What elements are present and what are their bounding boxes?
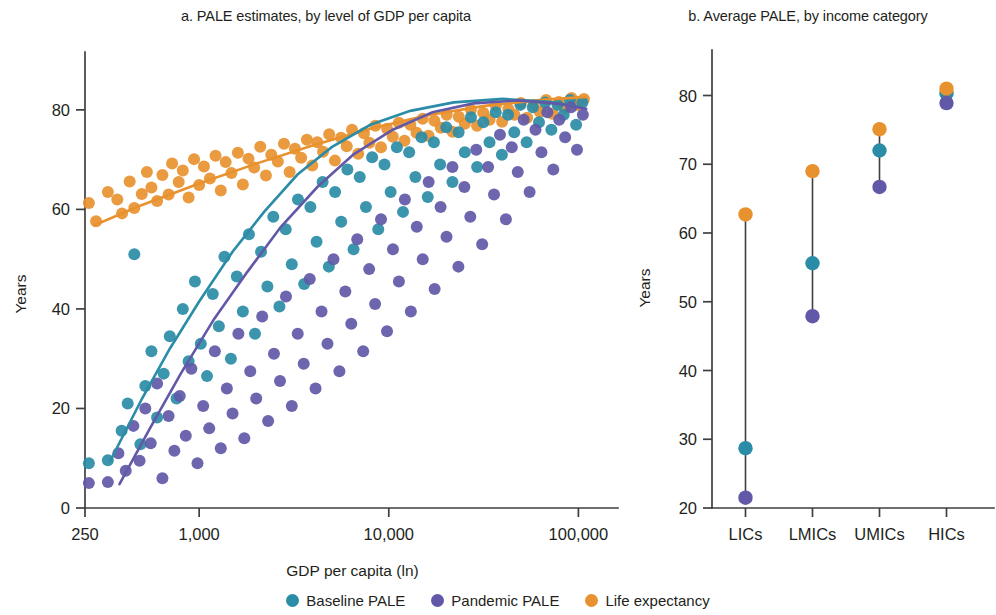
- data-point: [203, 422, 215, 434]
- data-point: [267, 211, 279, 223]
- data-point: [273, 300, 285, 312]
- data-point: [316, 305, 328, 317]
- y-tick-label-a: 40: [52, 300, 70, 318]
- data-point: [292, 328, 304, 340]
- y-tick-label-a: 60: [52, 200, 70, 218]
- data-point: [387, 243, 399, 255]
- series-dots-baseline-pale: [738, 86, 953, 455]
- data-point: [429, 283, 441, 295]
- data-point: [215, 184, 227, 196]
- figure-root: a. PALE estimates, by level of GDP per c…: [0, 0, 996, 615]
- data-point: [490, 106, 502, 118]
- data-point: [872, 180, 886, 194]
- data-point: [177, 165, 189, 177]
- data-point: [446, 161, 458, 173]
- data-point: [254, 141, 266, 153]
- data-point: [571, 144, 583, 156]
- series-dots-pandemic-pale: [738, 96, 953, 505]
- data-point: [484, 136, 496, 148]
- data-point: [102, 186, 114, 198]
- y-tick-label-a: 80: [52, 101, 70, 119]
- data-point: [329, 186, 341, 198]
- data-point: [207, 288, 219, 300]
- y-axis-title-b: Years: [636, 268, 653, 307]
- data-point: [872, 143, 886, 157]
- data-point: [506, 141, 518, 153]
- data-point: [122, 397, 134, 409]
- category-label: LICs: [729, 525, 763, 543]
- data-point: [209, 345, 221, 357]
- data-point: [738, 207, 752, 221]
- data-point: [335, 216, 347, 228]
- data-point: [111, 193, 123, 205]
- data-point: [545, 124, 557, 136]
- y-tick-label-a: 20: [52, 399, 70, 417]
- data-point: [310, 383, 322, 395]
- data-point: [939, 81, 953, 95]
- legend-dot-icon: [585, 594, 598, 607]
- data-point: [363, 263, 375, 275]
- data-point: [477, 116, 489, 128]
- data-point: [805, 256, 819, 270]
- data-point: [286, 400, 298, 412]
- data-point: [446, 176, 458, 188]
- data-point: [458, 181, 470, 193]
- data-point: [530, 124, 542, 136]
- data-point: [496, 149, 508, 161]
- data-point: [417, 253, 429, 265]
- data-point: [156, 169, 168, 181]
- data-point: [286, 258, 298, 270]
- data-point: [385, 186, 397, 198]
- panel-b-title: b. Average PALE, by income category: [620, 8, 996, 24]
- data-point: [391, 141, 403, 153]
- data-point: [381, 325, 393, 337]
- data-point: [180, 430, 192, 442]
- data-point: [502, 109, 514, 121]
- data-point: [577, 109, 589, 121]
- data-point: [354, 171, 366, 183]
- data-point: [210, 150, 222, 162]
- data-point: [250, 393, 262, 405]
- data-point: [508, 126, 520, 138]
- data-point: [268, 348, 280, 360]
- data-point: [329, 155, 341, 167]
- data-point: [357, 345, 369, 357]
- data-point: [409, 171, 421, 183]
- series-points-life-expectancy: [83, 92, 590, 227]
- data-point: [145, 182, 157, 194]
- data-point: [471, 161, 483, 173]
- legend-label: Pandemic PALE: [451, 592, 559, 609]
- legend-item: Life expectancy: [585, 592, 709, 609]
- data-point: [459, 146, 471, 158]
- data-point: [500, 213, 512, 225]
- data-point: [189, 276, 201, 288]
- panel-b-average-pale: b. Average PALE, by income category 2030…: [620, 0, 996, 585]
- data-point: [192, 457, 204, 469]
- data-point: [547, 164, 559, 176]
- data-point: [939, 96, 953, 110]
- data-point: [494, 129, 506, 141]
- y-tick-label-b: 40: [679, 362, 697, 380]
- legend-label: Life expectancy: [605, 592, 709, 609]
- data-point: [83, 457, 95, 469]
- data-point: [274, 375, 286, 387]
- data-point: [232, 147, 244, 159]
- data-point: [434, 159, 446, 171]
- y-tick-label-b: 60: [679, 224, 697, 242]
- data-point: [227, 407, 239, 419]
- y-tick-label-b: 20: [679, 499, 697, 517]
- data-point: [553, 114, 565, 126]
- data-point: [232, 328, 244, 340]
- data-point: [295, 152, 307, 164]
- data-point: [215, 442, 227, 454]
- data-point: [366, 151, 378, 163]
- data-point: [416, 131, 428, 143]
- data-point: [256, 310, 268, 322]
- data-point: [345, 318, 357, 330]
- data-point: [197, 400, 209, 412]
- panel-a-title: a. PALE estimates, by level of GDP per c…: [0, 8, 636, 24]
- data-point: [201, 370, 213, 382]
- data-point: [369, 298, 381, 310]
- data-point: [145, 345, 157, 357]
- data-point: [249, 328, 261, 340]
